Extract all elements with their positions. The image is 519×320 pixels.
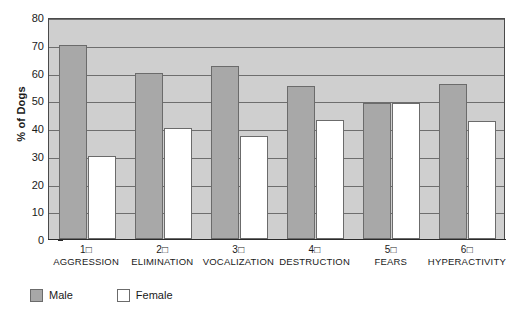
bar-chart: % of Dogs 01020304050607080 1□AGGRESSION… xyxy=(0,0,519,320)
y-tick-label: 50 xyxy=(14,96,44,107)
plot-area xyxy=(48,18,505,240)
y-tick-label: 60 xyxy=(14,68,44,79)
bar-male-fears xyxy=(363,103,391,239)
bar-female-hyperactivity xyxy=(468,121,496,239)
bar-male-hyperactivity xyxy=(439,84,467,239)
y-tick-label: 10 xyxy=(14,207,44,218)
bar-male-vocalization xyxy=(211,66,239,239)
y-tick-label: 70 xyxy=(14,40,44,51)
y-axis-ticks: 01020304050607080 xyxy=(14,18,44,240)
legend-item-male: Male xyxy=(30,289,73,302)
legend-label: Male xyxy=(49,290,73,301)
bar-male-aggression xyxy=(59,45,87,239)
y-tick-label: 80 xyxy=(14,13,44,24)
x-label-number: 6□ xyxy=(417,244,517,256)
y-tick-label: 30 xyxy=(14,151,44,162)
bar-male-destruction xyxy=(287,86,315,239)
bar-female-aggression xyxy=(88,156,116,239)
bars-layer xyxy=(49,19,504,239)
chart-legend: MaleFemale xyxy=(30,289,173,302)
y-tick-label: 20 xyxy=(14,179,44,190)
legend-label: Female xyxy=(136,290,173,301)
bar-male-elimination xyxy=(135,73,163,240)
x-label-hyperactivity: 6□HYPERACTIVITY xyxy=(417,244,517,268)
y-tick-label: 40 xyxy=(14,124,44,135)
x-axis-line xyxy=(48,239,506,240)
legend-swatch-male xyxy=(30,289,43,302)
legend-swatch-female xyxy=(117,289,130,302)
bar-female-vocalization xyxy=(240,136,268,239)
bar-female-destruction xyxy=(316,120,344,239)
x-label-name: HYPERACTIVITY xyxy=(417,256,517,268)
legend-item-female: Female xyxy=(117,289,173,302)
x-axis-labels: 1□AGGRESSION2□ELIMINATION3□VOCALIZATION4… xyxy=(48,244,505,278)
bar-female-fears xyxy=(392,103,420,239)
bar-female-elimination xyxy=(164,128,192,239)
y-tick-mark xyxy=(58,240,63,241)
